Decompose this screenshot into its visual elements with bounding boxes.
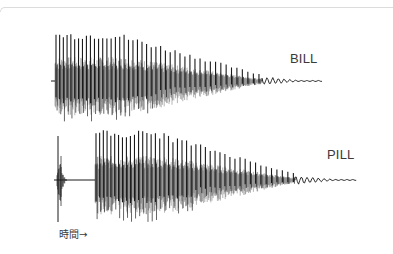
waveform-bill — [51, 34, 322, 121]
time-axis-label: 時間→ — [59, 226, 87, 241]
waveform-pill — [54, 130, 356, 222]
waveform-label-bill: BILL — [290, 51, 318, 66]
waveform-canvas — [0, 0, 393, 254]
waveform-label-pill: PILL — [327, 147, 355, 162]
